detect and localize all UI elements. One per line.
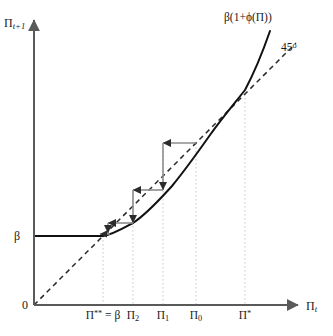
origin-label: 0 — [22, 299, 28, 311]
x-tick-label-pi-star: Π* — [239, 310, 251, 322]
x-tick-label-pi-double-star: Π** = β — [86, 310, 121, 322]
forty-five-value: 45 — [281, 41, 293, 53]
tick-superscript: * — [247, 309, 251, 318]
y-axis-label-subscript: t+1 — [13, 21, 26, 31]
degree-icon: o — [293, 41, 297, 50]
x-axis-label-symbol: Π — [306, 299, 315, 313]
tick-subscript: 2 — [135, 314, 139, 323]
tick-subscript: 1 — [165, 314, 169, 323]
y-axis-label-symbol: Π — [4, 16, 13, 30]
tick-superscript: ** — [94, 309, 102, 318]
policy-curve — [34, 31, 270, 236]
tick-subscript: 0 — [198, 314, 202, 323]
curve-label-expression: (1+ϕ(Π)) — [230, 11, 272, 23]
x-tick-label-pi-1: Π1 — [157, 310, 169, 323]
curve-label: β(1+ϕ(Π)) — [224, 12, 272, 24]
forty-five-degree-line — [34, 43, 296, 305]
cobweb-diagram-figure: Πt+1 Πt 0 β β(1+ϕ(Π)) 45o Π** = β Π2 Π1 … — [0, 0, 333, 336]
guide-lines-group — [103, 90, 245, 305]
x-tick-label-pi-2: Π2 — [127, 310, 139, 323]
forty-five-degree-label: 45o — [281, 42, 297, 54]
beta-axis-label: β — [14, 230, 20, 242]
x-axis-label: Πt — [306, 300, 317, 314]
x-tick-label-pi-0: Π0 — [190, 310, 202, 323]
y-axis-label: Πt+1 — [4, 17, 25, 31]
x-axis-label-subscript: t — [315, 304, 317, 314]
tick-tail: = β — [102, 309, 120, 321]
